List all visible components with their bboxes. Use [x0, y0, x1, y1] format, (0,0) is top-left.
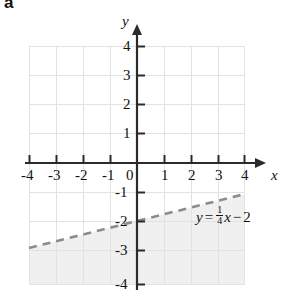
- equation-variable: x: [224, 209, 231, 225]
- x-tick-label--3: -3: [48, 168, 61, 183]
- fraction-denominator: 4: [216, 215, 223, 226]
- y-tick-label-4: 4: [123, 39, 131, 54]
- fraction-numerator: 1: [216, 205, 223, 215]
- x-tick-label-4: 4: [241, 168, 249, 183]
- y-tick-label--4: -4: [115, 277, 128, 292]
- y-tick-label-3: 3: [123, 68, 131, 83]
- x-tick-label--1: -1: [102, 168, 115, 183]
- equation-equals: =: [205, 209, 213, 225]
- y-axis-arrowhead: [132, 24, 142, 35]
- y-tick-label-1: 1: [123, 126, 131, 141]
- y-tick-label--2: -2: [115, 214, 128, 229]
- x-axis-arrowhead: [255, 158, 266, 168]
- equation-minus: −: [233, 209, 241, 225]
- y-tick-label-2: 2: [123, 97, 131, 112]
- equation-lhs: y: [196, 209, 203, 225]
- coordinate-plane: [0, 0, 291, 302]
- x-tick-label--4: -4: [21, 168, 34, 183]
- graph-figure: a: [0, 0, 291, 302]
- origin-label: 0: [126, 168, 134, 183]
- equation-annotation: y = 1 4 x − 2: [196, 206, 251, 227]
- x-tick-label-2: 2: [188, 168, 196, 183]
- y-axis-label: y: [122, 14, 129, 29]
- equation-constant: 2: [243, 209, 251, 225]
- x-axis-label: x: [271, 168, 278, 183]
- x-tick-label--2: -2: [75, 168, 88, 183]
- equation-fraction: 1 4: [216, 205, 223, 226]
- x-tick-label-1: 1: [161, 168, 169, 183]
- x-tick-label-3: 3: [215, 168, 223, 183]
- y-tick-label--3: -3: [115, 243, 128, 258]
- y-tick-label--1: -1: [115, 185, 128, 200]
